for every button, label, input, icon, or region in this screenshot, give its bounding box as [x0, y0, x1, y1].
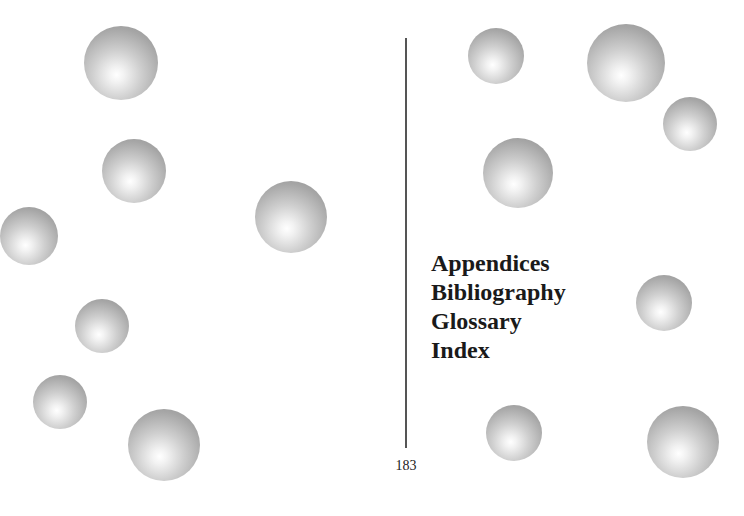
sphere-icon [75, 299, 129, 353]
section-appendices[interactable]: Appendices [431, 249, 566, 278]
section-bibliography[interactable]: Bibliography [431, 278, 566, 307]
sphere-icon [486, 405, 542, 461]
section-index[interactable]: Index [431, 336, 566, 365]
sphere-icon [468, 28, 524, 84]
sphere-icon [663, 97, 717, 151]
vertical-divider [405, 38, 407, 448]
back-matter-contents: Appendices Bibliography Glossary Index [431, 249, 566, 365]
sphere-icon [33, 375, 87, 429]
sphere-icon [483, 138, 553, 208]
sphere-icon [255, 181, 327, 253]
sphere-icon [128, 409, 200, 481]
sphere-icon [647, 406, 719, 478]
page-number: 183 [386, 458, 426, 474]
sphere-icon [0, 207, 58, 265]
sphere-icon [587, 24, 665, 102]
sphere-icon [102, 139, 166, 203]
section-glossary[interactable]: Glossary [431, 307, 566, 336]
sphere-icon [636, 275, 692, 331]
sphere-icon [84, 26, 158, 100]
